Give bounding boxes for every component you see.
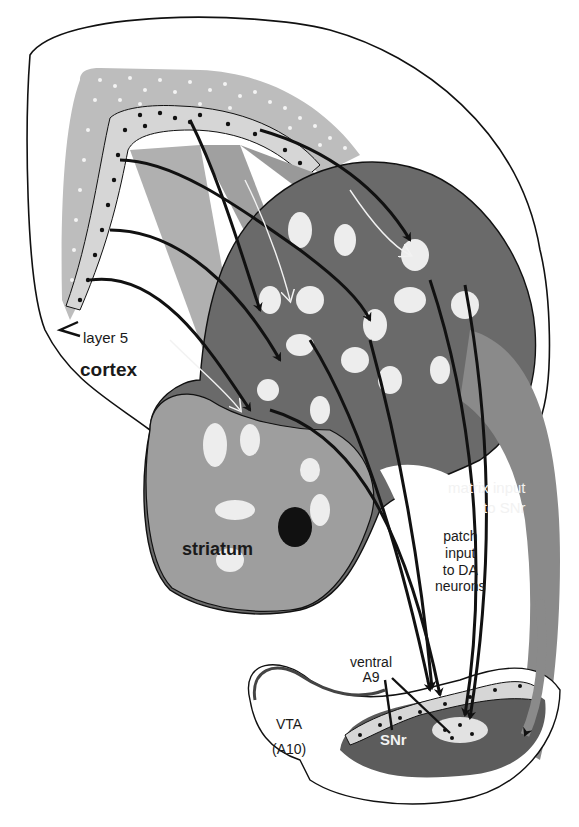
label-matrix-input-line1: matrix input: [448, 478, 526, 498]
label-snr: SNr: [380, 732, 407, 748]
label-patch-input-line4: neurons: [435, 578, 486, 595]
label-patch-input: patch input to DA neurons: [435, 528, 486, 595]
label-ventral-a9-line2: A9: [350, 670, 392, 685]
label-striatum: striatum: [182, 540, 253, 559]
label-vta: VTA (A10): [272, 712, 306, 762]
label-vta-line1: VTA: [272, 712, 306, 737]
striatum-dark-blob: [278, 507, 312, 547]
label-patch-input-line1: patch: [435, 528, 486, 545]
label-vta-line2: (A10): [272, 737, 306, 762]
label-ventral-a9: ventral A9: [350, 655, 392, 684]
label-matrix-input-line2: to SNr: [448, 498, 526, 518]
basal-ganglia-diagram: [0, 0, 579, 827]
label-patch-input-line2: input: [435, 545, 486, 562]
label-cortex: cortex: [80, 360, 137, 380]
patch-target-zone: [432, 717, 488, 743]
label-ventral-a9-line1: ventral: [350, 655, 392, 670]
label-layer5: layer 5: [83, 330, 128, 346]
label-matrix-input: matrix input to SNr: [448, 478, 526, 519]
label-patch-input-line3: to DA: [435, 562, 486, 579]
